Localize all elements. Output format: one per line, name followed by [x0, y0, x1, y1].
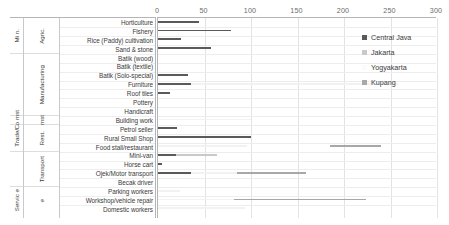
- legend-swatch-icon: [362, 65, 367, 70]
- category-label: Handicraft: [124, 108, 153, 116]
- bar-central-java-0: [158, 21, 199, 23]
- group-label: Rest.: [38, 131, 45, 145]
- row-separator: [158, 178, 436, 179]
- group-cell: Transport: [24, 152, 59, 188]
- row-separator: [158, 134, 436, 135]
- group-label: mst: [38, 115, 45, 125]
- group-cell: e: [24, 187, 59, 214]
- group-label: Servic e: [13, 189, 20, 211]
- bar-central-java-3: [158, 47, 211, 49]
- bar-kupang-14: [330, 145, 381, 147]
- group-label: Trade/: [13, 129, 20, 147]
- row-separator: [158, 143, 436, 144]
- category-label: Food stall/restaurant: [96, 144, 153, 152]
- label-row-separator: [60, 187, 155, 188]
- bar-central-java-8: [158, 92, 170, 94]
- row-separator: [158, 27, 436, 28]
- group-label: e: [38, 199, 45, 202]
- category-label: Horse cart: [124, 161, 153, 169]
- row-separator: [158, 125, 436, 126]
- category-label: Rice (Paddy) cultivation: [87, 37, 153, 45]
- legend-item-jakarta[interactable]: Jakarta: [362, 45, 446, 60]
- row-separator: [158, 98, 436, 99]
- label-row-separator: [60, 134, 155, 135]
- row-separator: [158, 169, 436, 170]
- label-row-separator: [60, 125, 155, 126]
- bar-yogyakarta-14: [158, 145, 247, 147]
- group-cell: Trade/: [10, 125, 23, 152]
- x-axis-tick-200: 200: [337, 6, 349, 15]
- category-label: Building work: [116, 117, 153, 125]
- label-row-separator: [60, 98, 155, 99]
- row-separator: [158, 205, 436, 206]
- bar-kupang-20: [234, 199, 366, 201]
- bar-jakarta-15: [176, 154, 217, 156]
- group-label: Mi n.: [13, 29, 20, 42]
- category-label: Fishery: [132, 28, 153, 36]
- category-label: Furniture: [128, 81, 153, 89]
- group-cell: mst: [24, 116, 59, 125]
- bar-chart: 050100150200250300 Mi n.Co mstTrade/Serv…: [0, 0, 449, 225]
- label-row-separator: [60, 116, 155, 117]
- bar-central-java-6: [158, 74, 188, 76]
- group-label: Manufacturing: [38, 65, 45, 104]
- label-row-separator: [60, 107, 155, 108]
- legend-item-yogyakarta[interactable]: Yogyakarta: [362, 60, 446, 75]
- group-cell: [10, 54, 23, 116]
- category-label: Batik (wood): [118, 55, 153, 63]
- x-axis-tick-300: 300: [430, 6, 442, 15]
- group-cell: Manufacturing: [24, 54, 59, 116]
- row-separator: [158, 196, 436, 197]
- category-label: Batik (Solo-special): [99, 72, 153, 80]
- category-label: Batik (textile): [117, 63, 153, 71]
- legend-label: Yogyakarta: [371, 63, 407, 72]
- group-cell: Mi n.: [10, 18, 23, 54]
- category-label: Becak driver: [118, 179, 153, 187]
- group-column-inner: Agric.ManufacturingmstRest.Transporte: [24, 17, 60, 218]
- label-row-separator: [60, 161, 155, 162]
- label-row-separator: [60, 205, 155, 206]
- legend-swatch-icon: [362, 50, 367, 55]
- group-cell: Rest.: [24, 125, 59, 152]
- group-cell: Servic e: [10, 187, 23, 214]
- category-label: Horticulture: [121, 19, 153, 27]
- category-label: Sand & stone: [115, 46, 153, 54]
- x-axis-tick-labels: 050100150200250300: [0, 6, 449, 17]
- group-cell: Co mst: [10, 116, 23, 125]
- bar-yogyakarta-17: [191, 172, 237, 174]
- category-label: Ojek/Motor transport: [96, 170, 153, 178]
- row-separator: [158, 116, 436, 117]
- category-label: Petrol seller: [120, 126, 153, 134]
- x-axis-tick-100: 100: [244, 6, 256, 15]
- row-separator: [158, 152, 436, 153]
- x-axis-tick-150: 150: [290, 6, 302, 15]
- category-label: Rural Small Shop: [104, 135, 153, 143]
- category-label-column: HorticultureFisheryRice (Paddy) cultivat…: [60, 17, 156, 218]
- row-separator: [158, 107, 436, 108]
- bar-central-java-16: [158, 163, 162, 165]
- bar-central-java-7: [158, 83, 191, 85]
- legend-label: Jakarta: [371, 48, 395, 57]
- legend-swatch-icon: [362, 35, 367, 40]
- label-row-separator: [60, 169, 155, 170]
- label-row-separator: [60, 54, 155, 55]
- label-row-separator: [60, 63, 155, 64]
- bar-central-java-15: [158, 154, 176, 156]
- bar-yogyakarta-11: [158, 119, 251, 121]
- legend-item-kupang[interactable]: Kupang: [362, 75, 446, 90]
- group-cell: [10, 152, 23, 188]
- bar-yogyakarta-19: [158, 190, 180, 192]
- group-label: Agric.: [38, 28, 45, 44]
- chart-legend: Central JavaJakartaYogyakartaKupang: [362, 30, 446, 90]
- row-separator: [158, 187, 436, 188]
- label-row-separator: [60, 178, 155, 179]
- label-row-separator: [60, 196, 155, 197]
- group-cell: Agric.: [24, 18, 59, 54]
- group-label: Transport: [38, 156, 45, 182]
- bar-yogyakarta-21: [158, 207, 245, 209]
- label-row-separator: [60, 27, 155, 28]
- legend-label: Kupang: [371, 78, 396, 87]
- legend-item-central-java[interactable]: Central Java: [362, 30, 446, 45]
- category-label: Domestic workers: [103, 206, 153, 214]
- category-label: Pottery: [133, 99, 153, 107]
